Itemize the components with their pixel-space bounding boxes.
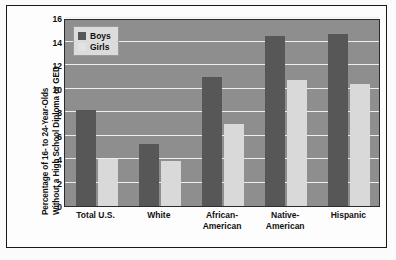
x-axis-tick-label: Hispanic (331, 210, 366, 221)
bar-girls (161, 161, 181, 206)
y-axis-tick-label: 4 (42, 155, 62, 165)
y-axis-title: Percentage of 16- to 24-Year-Olds Withou… (14, 15, 44, 215)
legend: Boys Girls (73, 26, 119, 56)
x-axis-tick-label-line2: American (203, 221, 242, 232)
legend-item-boys: Boys (78, 30, 111, 41)
legend-item-girls: Girls (78, 41, 111, 52)
bar-boys (328, 34, 348, 206)
x-axis-tick-label-line1: Total U.S. (76, 210, 115, 220)
y-axis-tick-label: 10 (42, 85, 62, 95)
y-axis-tick-labels: 0246810121416 (42, 19, 62, 207)
y-axis-tick-label: 16 (42, 14, 62, 24)
bar-girls (287, 80, 307, 206)
bar-girls (350, 84, 370, 206)
x-axis-tick-label: Native-American (266, 210, 305, 231)
y-axis-tick-label: 0 (42, 202, 62, 212)
bar-boys (139, 144, 159, 206)
legend-swatch-boys-icon (78, 32, 86, 40)
bar-girls (98, 159, 118, 206)
y-axis-tick-label: 12 (42, 61, 62, 71)
legend-label-boys: Boys (90, 31, 111, 41)
chart-figure: Percentage of 16- to 24-Year-Olds Withou… (0, 0, 396, 260)
x-axis-tick-label: Total U.S. (76, 210, 115, 221)
y-axis-tick-label: 6 (42, 132, 62, 142)
bar-girls (224, 124, 244, 206)
y-axis-tick-label: 2 (42, 179, 62, 189)
legend-label-girls: Girls (90, 42, 109, 52)
x-axis-tick-label-line1: Hispanic (331, 210, 366, 220)
x-axis-tick-label-line1: African- (206, 210, 238, 220)
plot-area: Boys Girls (64, 19, 380, 207)
bar-boys (265, 36, 285, 206)
x-axis-tick-labels: Total U.S.WhiteAfrican-AmericanNative-Am… (64, 210, 380, 244)
y-axis-tick-label: 8 (42, 108, 62, 118)
x-axis-tick-label: White (147, 210, 170, 221)
y-axis-tick-label: 14 (42, 38, 62, 48)
bar-boys (202, 77, 222, 206)
x-axis-tick-label-line2: American (266, 221, 305, 232)
legend-swatch-girls-icon (78, 43, 86, 51)
bar-boys (76, 110, 96, 206)
x-axis-tick-label-line1: Native- (271, 210, 299, 220)
x-axis-tick-label: African-American (203, 210, 242, 231)
x-axis-tick-label-line1: White (147, 210, 170, 220)
gridline (65, 17, 379, 18)
